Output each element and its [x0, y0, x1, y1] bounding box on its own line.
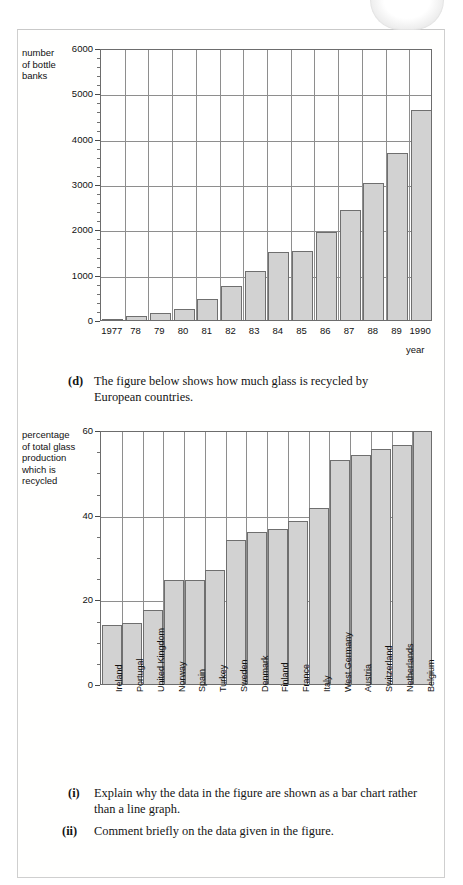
x-tick-label: Italy — [322, 675, 332, 692]
bar — [351, 455, 371, 684]
fig1-x-axis-name: year — [406, 344, 424, 355]
x-tick-label: Belgium — [426, 659, 436, 692]
question-ii: (ii) Comment briefly on the data given i… — [62, 824, 418, 840]
fig2-y-axis-title: percentage of total glass production whi… — [22, 429, 100, 487]
x-tick-label: Austria — [363, 664, 373, 692]
x-tick-label: Portugal — [135, 658, 145, 692]
y-tick-label-0: 0 — [75, 679, 93, 690]
glass-recycling-figure: percentage of total glass production whi… — [0, 0, 463, 340]
question-i-marker: (i) — [68, 786, 80, 802]
fig2-plot-area — [100, 431, 432, 685]
x-tick-label: Finland — [280, 662, 290, 692]
bar — [309, 508, 329, 684]
y-tick-label-20: 20 — [75, 594, 93, 605]
question-i: (i) Explain why the data in the figure a… — [68, 786, 418, 817]
question-i-text: Explain why the data in the figure are s… — [94, 786, 418, 817]
x-tick-label: Switzerland — [384, 645, 394, 692]
bar — [413, 431, 432, 684]
x-tick-label: West Germany — [343, 632, 353, 692]
x-tick-label: Denmark — [260, 655, 270, 692]
bar — [288, 521, 308, 684]
x-tick-label: United Kingdom — [156, 628, 166, 692]
x-tick-label: Norway — [177, 661, 187, 692]
x-tick-label: Sweden — [239, 659, 249, 692]
x-tick-label: France — [301, 664, 311, 692]
paragraph-d-marker: (d) — [68, 374, 83, 390]
question-ii-marker: (ii) — [62, 824, 77, 840]
y-tick-mark-0 — [95, 685, 100, 686]
x-tick-label: Turkey — [218, 665, 228, 692]
y-tick-label-60: 60 — [75, 425, 93, 436]
x-tick-label: Netherlands — [405, 643, 415, 692]
x-tick-label: Ireland — [114, 664, 124, 692]
x-tick-label: Spain — [197, 669, 207, 692]
y-tick-label-40: 40 — [75, 510, 93, 521]
paragraph-d-text: The figure below shows how much glass is… — [94, 374, 413, 405]
paragraph-d: (d) The figure below shows how much glas… — [68, 374, 413, 405]
question-ii-text: Comment briefly on the data given in the… — [94, 824, 418, 840]
bar — [268, 529, 288, 684]
